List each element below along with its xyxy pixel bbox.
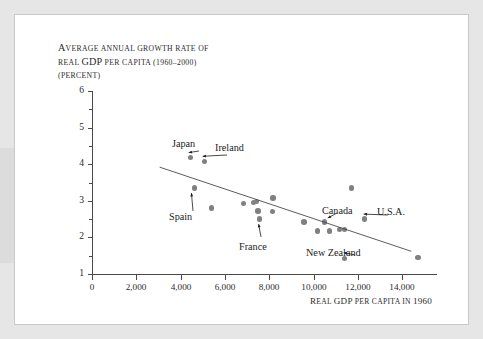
x-tick-label: 14,000	[377, 282, 427, 292]
y-tick-label: 2	[62, 230, 84, 241]
data-point	[255, 208, 260, 213]
x-axis-line	[92, 274, 437, 275]
data-point	[327, 228, 332, 233]
y-tick-minor	[89, 256, 93, 257]
data-point	[415, 255, 420, 260]
x-tick	[181, 275, 182, 280]
data-point	[188, 155, 193, 160]
data-point	[202, 159, 207, 164]
x-tick	[314, 275, 315, 280]
y-tick-minor	[89, 109, 93, 110]
data-point	[322, 219, 327, 224]
x-tick-label: 0	[67, 282, 117, 292]
y-tick-major	[88, 128, 93, 129]
y-tick-major	[88, 201, 93, 202]
data-point	[270, 195, 275, 200]
y-tick-label: 5	[62, 121, 84, 132]
point-annotation-france: France	[239, 241, 267, 252]
data-point	[257, 216, 262, 221]
figure-card: AVERAGE ANNUAL GROWTH RATE OF REAL GDP P…	[14, 14, 469, 325]
y-tick-label: 3	[62, 194, 84, 205]
x-axis-title: REAL GDP PER CAPITA IN 1960	[310, 296, 432, 306]
x-tick-label: 10,000	[289, 282, 339, 292]
data-point	[362, 216, 367, 221]
point-annotation-u-s-a: U.S.A.	[377, 206, 405, 217]
x-tick-label: 2,000	[111, 282, 161, 292]
y-tick-label: 6	[62, 84, 84, 95]
y-tick-label: 1	[62, 267, 84, 278]
figure-page: AVERAGE ANNUAL GROWTH RATE OF REAL GDP P…	[0, 0, 483, 339]
data-point	[241, 201, 246, 206]
x-tick-label: 4,000	[156, 282, 206, 292]
data-point	[349, 185, 354, 190]
data-point	[301, 219, 306, 224]
data-point	[209, 205, 214, 210]
x-tick-label: 8,000	[244, 282, 294, 292]
y-tick-major	[88, 237, 93, 238]
plot-area: 12345602,0004,0006,0008,00010,00012,0001…	[15, 15, 470, 326]
point-annotation-ireland: Ireland	[215, 142, 244, 153]
y-tick-minor	[89, 183, 93, 184]
y-tick-label: 4	[62, 157, 84, 168]
x-tick	[92, 275, 93, 280]
data-point	[254, 199, 259, 204]
data-point	[315, 228, 320, 233]
data-point	[342, 227, 347, 232]
point-annotation-new-zealand: New Zealand	[306, 247, 361, 258]
data-point	[270, 209, 275, 214]
point-annotation-canada: Canada	[322, 205, 353, 216]
y-tick-major	[88, 164, 93, 165]
x-tick	[402, 275, 403, 280]
y-tick-minor	[89, 219, 93, 220]
x-tick	[269, 275, 270, 280]
scatter-figure: AVERAGE ANNUAL GROWTH RATE OF REAL GDP P…	[15, 15, 470, 326]
x-tick	[136, 275, 137, 280]
point-annotation-spain: Spain	[169, 211, 192, 222]
x-tick-label: 6,000	[200, 282, 250, 292]
y-tick-minor	[89, 146, 93, 147]
point-annotation-japan: Japan	[172, 138, 195, 149]
x-tick	[358, 275, 359, 280]
y-tick-major	[88, 91, 93, 92]
x-tick	[225, 275, 226, 280]
data-point	[192, 185, 197, 190]
x-tick-label: 12,000	[333, 282, 383, 292]
